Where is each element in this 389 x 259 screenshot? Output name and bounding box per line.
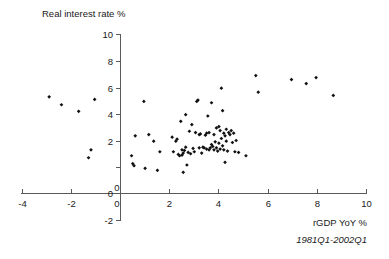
x-tick-label-2: 2 <box>167 198 172 209</box>
data-point <box>224 139 228 143</box>
data-point <box>212 148 216 152</box>
data-point <box>222 148 226 152</box>
data-point <box>237 151 241 155</box>
data-point <box>47 95 51 99</box>
x-tick-label-4: 4 <box>216 198 221 209</box>
data-point <box>185 163 189 167</box>
data-point <box>60 103 64 107</box>
data-point <box>212 133 216 137</box>
data-point <box>93 98 97 102</box>
data-point <box>220 86 224 90</box>
y-tick-label-0: 0 <box>108 188 113 199</box>
data-point <box>290 78 294 82</box>
x-tick-label-6: 6 <box>266 198 271 209</box>
data-point <box>142 100 146 104</box>
origin-label: 0 <box>114 182 119 193</box>
y-tick-label-minus2: -2 <box>105 215 113 226</box>
data-point <box>194 131 198 135</box>
x-axis-title: rGDP YoY % <box>313 217 368 228</box>
x-tick-label-minus4: -4 <box>18 198 26 209</box>
y-axis-title: Real interest rate % <box>42 8 126 19</box>
data-point <box>192 150 196 154</box>
data-point <box>226 149 230 153</box>
data-point <box>190 123 194 127</box>
data-point <box>221 144 225 148</box>
y-tick-label-2: 2 <box>108 136 113 147</box>
x-tick-label-0: 0 <box>114 198 119 209</box>
data-point <box>184 113 188 117</box>
data-point <box>218 129 222 133</box>
data-point <box>181 170 185 174</box>
data-point <box>221 109 225 113</box>
data-point <box>218 147 222 151</box>
data-point <box>200 151 204 155</box>
data-point <box>89 148 93 152</box>
data-point <box>130 154 134 158</box>
y-tick-label-4: 4 <box>108 109 113 120</box>
y-tick-label-6: 6 <box>108 83 113 94</box>
data-point <box>217 141 221 145</box>
data-point <box>143 166 147 170</box>
x-tick-label-minus2: -2 <box>67 198 75 209</box>
data-point <box>156 168 160 172</box>
y-tick-label-8: 8 <box>108 56 113 67</box>
data-point <box>244 154 248 158</box>
data-point <box>77 110 81 114</box>
chart-canvas: Real interest rate % 10 8 6 4 2 0 -2 <box>0 0 389 259</box>
data-point <box>152 139 156 143</box>
data-point <box>314 76 318 80</box>
data-point <box>206 114 210 118</box>
data-point <box>197 146 201 150</box>
scatter-chart-figure: Real interest rate % 10 8 6 4 2 0 -2 <box>0 0 389 259</box>
data-point <box>233 150 237 154</box>
data-point <box>170 135 174 139</box>
data-points-group <box>47 74 335 174</box>
data-point <box>215 146 219 150</box>
data-point <box>256 90 260 94</box>
data-point <box>87 156 91 160</box>
x-tick-label-8: 8 <box>315 198 320 209</box>
data-point <box>232 131 236 135</box>
y-tick-label-10: 10 <box>102 29 113 40</box>
data-point <box>229 129 233 133</box>
x-axis-ticks <box>23 189 367 194</box>
data-point <box>331 94 335 98</box>
data-point <box>216 149 220 153</box>
data-point <box>231 141 235 145</box>
data-point <box>184 145 188 149</box>
data-point <box>220 137 224 141</box>
period-annotation: 1981Q1-2002Q1 <box>296 234 367 245</box>
data-point <box>223 161 227 165</box>
data-point <box>234 139 238 143</box>
data-point <box>213 140 217 144</box>
data-point <box>254 74 258 78</box>
data-point <box>304 82 308 86</box>
data-point <box>133 134 137 138</box>
data-point <box>158 150 162 154</box>
data-point <box>188 129 192 133</box>
data-point <box>172 150 176 154</box>
data-point <box>191 147 195 151</box>
data-point <box>224 127 228 131</box>
data-point <box>179 119 183 123</box>
x-tick-label-10: 10 <box>361 198 372 209</box>
data-point <box>210 101 214 105</box>
data-point <box>147 133 151 137</box>
